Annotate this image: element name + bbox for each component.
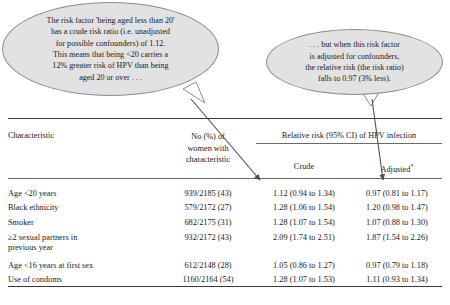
cell-characteristic: Age <16 years at first sex [8,257,160,272]
cell-adjusted: 1.87 (1.54 to 2.26) [352,229,442,257]
cell-number: 939/2185 (43) [160,184,256,200]
table-rule-bottom [8,286,442,290]
callout-crude-text: The risk factor 'being aged less than 20… [32,15,188,83]
callout-crude-tail [183,82,205,103]
cell-characteristic: Smoker [8,214,160,229]
table-header-row-top: Characteristic No (%) of women with char… [8,124,442,147]
cell-crude: 1.12 (0.94 to 1.34) [256,184,352,200]
cell-adjusted: 0.97 (0.79 to 1.18) [352,257,442,272]
cell-number: 612/2148 (28) [160,257,256,272]
cell-characteristic: Use of condoms [8,271,160,286]
cell-crude: 1.05 (0.86 to 1.27) [256,257,352,272]
results-table-container: Characteristic No (%) of women with char… [8,118,442,290]
header-crude: Crude [256,147,352,178]
table-row: Smoker 682/2175 (31) 1.28 (1.07 to 1.54)… [8,214,442,229]
table-row: Use of condoms 1160/2164 (54) 1.28 (1.07… [8,271,442,286]
cell-characteristic: Age <20 years [8,184,160,200]
table-row: Age <20 years 939/2185 (43) 1.12 (0.94 t… [8,184,442,200]
header-relative-risk-group: Relative risk (95% CI) of HPV infection [256,124,442,147]
figure-annotated-results-table: The risk factor 'being aged less than 20… [0,0,450,305]
cell-number: 682/2175 (31) [160,214,256,229]
header-adjusted-label: Adjusted [380,165,410,174]
table-row: ≥2 sexual partners in previous year 932/… [8,229,442,257]
cell-crude: 1.28 (1.07 to 1.54) [256,214,352,229]
callout-bubble-crude: The risk factor 'being aged less than 20… [2,2,219,96]
cell-number: 1160/2164 (54) [160,271,256,286]
cell-adjusted: 1.11 (0.93 to 1.34) [352,271,442,286]
callout-adjusted-text: . . . but when this risk factor is adjus… [296,39,413,85]
header-adjusted-footnote-marker: * [410,162,413,169]
callout-bubble-adjusted: . . . but when this risk factor is adjus… [266,29,443,95]
cell-adjusted: 1.20 (0.98 to 1.47) [352,199,442,214]
table-row: Age <16 years at first sex 612/2148 (28)… [8,257,442,272]
results-table: Characteristic No (%) of women with char… [8,118,442,290]
header-adjusted: Adjusted* [352,147,442,178]
cell-crude: 1.28 (1.07 to 1.53) [256,271,352,286]
cell-number: 579/2172 (27) [160,199,256,214]
header-relative-risk-group-label: Relative risk (95% CI) of HPV infection [256,131,442,144]
cell-crude: 1.28 (1.06 to 1.54) [256,199,352,214]
header-number-of-women: No (%) of women with characteristic [160,124,256,178]
cell-adjusted: 1.07 (0.88 to 1.30) [352,214,442,229]
header-characteristic: Characteristic [8,124,160,178]
cell-crude: 2.09 (1.74 to 2.51) [256,229,352,257]
cell-adjusted: 0.97 (0.81 to 1.17) [352,184,442,200]
cell-characteristic: ≥2 sexual partners in previous year [8,229,160,257]
table-row: Black ethnicity 579/2172 (27) 1.28 (1.06… [8,199,442,214]
cell-characteristic: Black ethnicity [8,199,160,214]
cell-number: 932/2172 (43) [160,229,256,257]
